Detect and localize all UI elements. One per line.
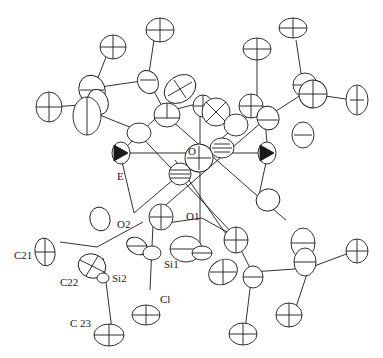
atom-label-si2: Si2 (112, 273, 127, 284)
e-atom-left (112, 142, 130, 164)
atom-label-o2: O2 (117, 219, 130, 230)
atom-label-o: O (188, 146, 196, 157)
e-atom-right (258, 142, 276, 164)
atom-label-c23: C 23 (70, 318, 91, 329)
atom-label-c22: C22 (60, 277, 78, 288)
atom-label-c21: C21 (14, 250, 32, 261)
atom-label-o1: O1 (186, 211, 199, 222)
molecular-structure-figure: E O O1 O2 Si1 Si2 C21 C22 Cl C 23 (0, 0, 383, 358)
atom-label-e: E (117, 171, 124, 182)
atom-label-cl: Cl (160, 294, 170, 305)
atom-label-si1: Si1 (164, 259, 179, 270)
ortep-drawing (0, 0, 383, 358)
